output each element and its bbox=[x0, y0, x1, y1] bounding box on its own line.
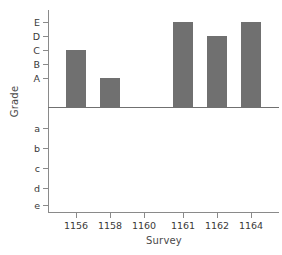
bar-1161[interactable] bbox=[173, 22, 193, 107]
x-tick-mark-1160 bbox=[144, 213, 145, 218]
x-tick-mark-1161 bbox=[183, 213, 184, 218]
bar-1158[interactable] bbox=[100, 78, 120, 107]
x-tick-mark-1164 bbox=[251, 213, 252, 218]
zero-baseline bbox=[48, 107, 279, 108]
plot-area bbox=[0, 0, 282, 255]
x-tick-mark-1158 bbox=[110, 213, 111, 218]
x-tick-mark-1156 bbox=[76, 213, 77, 218]
bar-1156[interactable] bbox=[66, 50, 86, 107]
bar-1162[interactable] bbox=[207, 36, 227, 107]
bar-chart: Grade E D C B A a b c d e 1156 1158 1160… bbox=[0, 0, 282, 255]
x-axis-title: Survey bbox=[48, 235, 280, 246]
x-tick-label-1164: 1164 bbox=[231, 221, 271, 231]
bar-1164[interactable] bbox=[241, 22, 261, 107]
x-tick-label-1160: 1160 bbox=[124, 221, 164, 231]
x-tick-mark-1162 bbox=[217, 213, 218, 218]
